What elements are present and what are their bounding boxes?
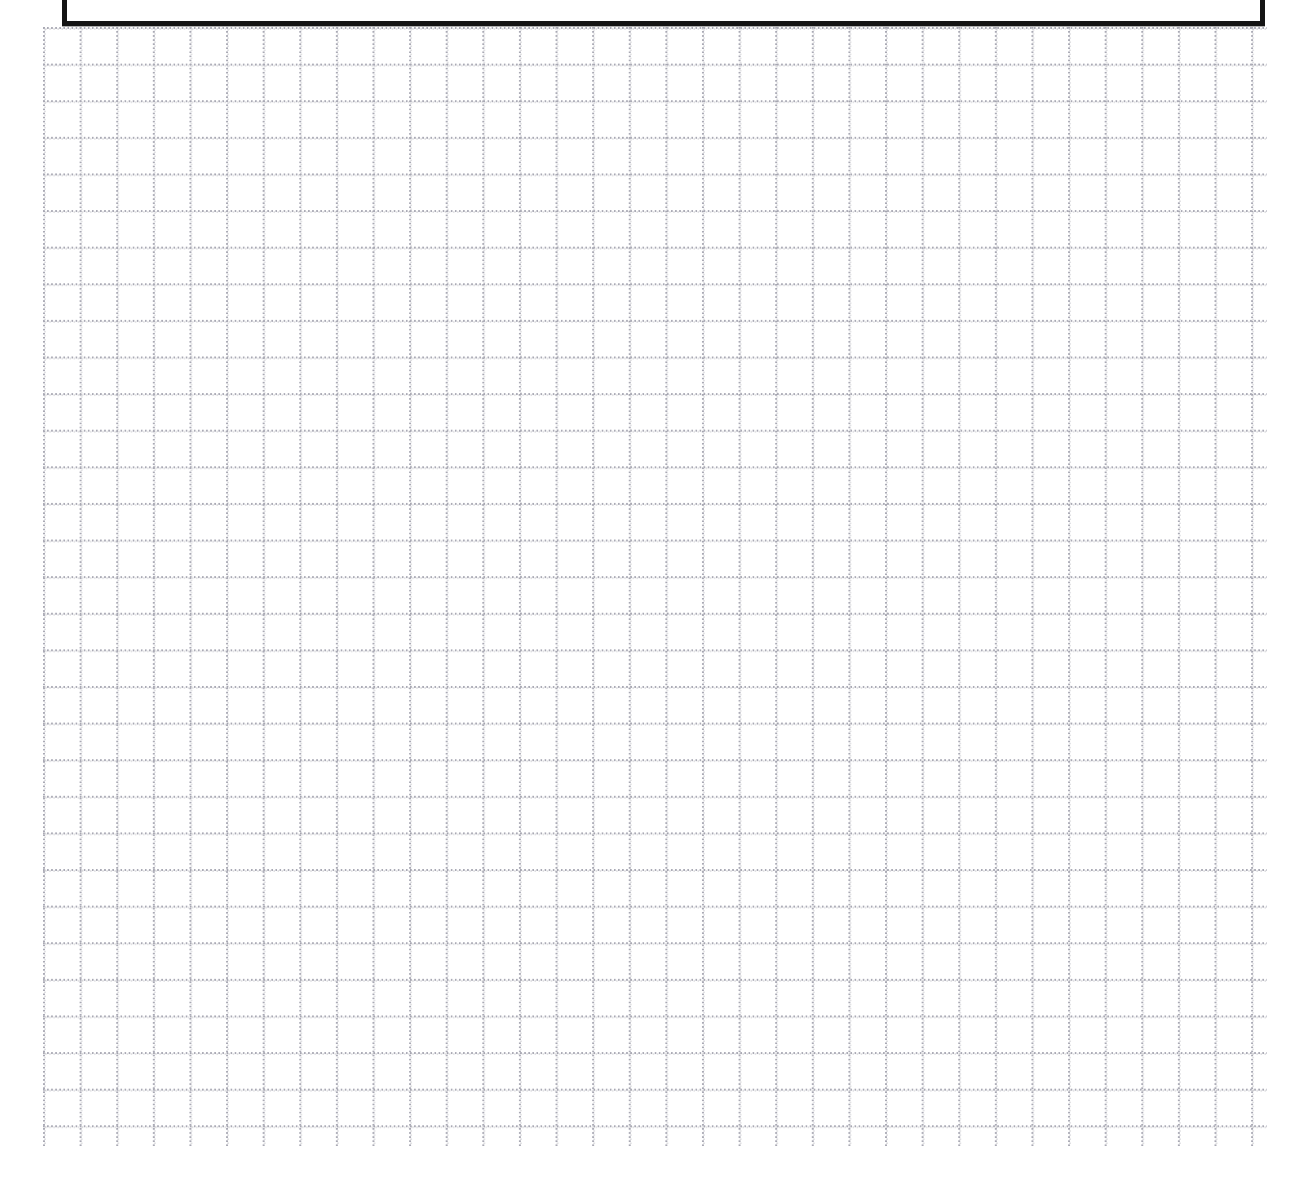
scanned-page	[0, 0, 1310, 1194]
form-outline-box	[62, 0, 1265, 26]
paper-margin-right	[1267, 0, 1310, 1194]
paper-margin-bottom	[0, 1146, 1310, 1194]
graph-paper-grid	[43, 27, 1267, 1146]
paper-margin-left	[0, 0, 43, 1194]
